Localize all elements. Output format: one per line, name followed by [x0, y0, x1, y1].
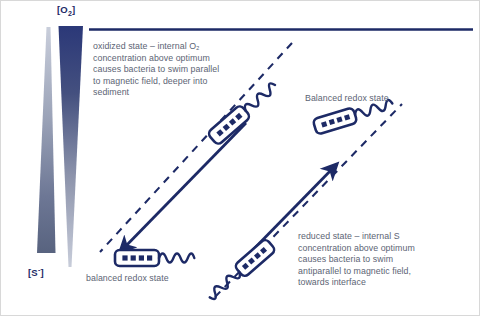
- bacterium-reduced: [204, 238, 276, 303]
- sulfide-gradient-triangle: [37, 27, 56, 253]
- swim-arrow-downward: [120, 123, 246, 252]
- sulfide-gradient-label: [S-]: [28, 266, 44, 278]
- caption-reduced-state: reduced state – internal S concentration…: [298, 231, 438, 289]
- caption-oxidized-state: oxidized state – internal O₂ concentrati…: [93, 41, 223, 99]
- label-balanced-redox-bottom: balanced redox state: [86, 273, 169, 285]
- oxygen-gradient-triangle: [59, 26, 84, 267]
- bacterium-balanced-bottom: [115, 250, 194, 266]
- label-balanced-redox-top: Balanced redox state: [305, 93, 389, 105]
- diagram-canvas: [O2] [S-] oxidized state – internal O₂ c…: [0, 0, 480, 316]
- oxygen-gradient-label: [O2]: [57, 4, 75, 17]
